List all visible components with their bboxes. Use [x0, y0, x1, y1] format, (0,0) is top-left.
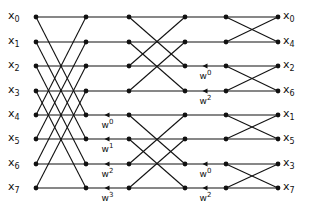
node: [183, 186, 188, 191]
twiddle-label-base: w: [102, 193, 109, 203]
output-label: x1: [283, 108, 295, 122]
node: [84, 186, 89, 191]
twiddle-label: w2: [102, 168, 114, 179]
node: [34, 40, 39, 45]
node: [34, 64, 39, 69]
output-label: x7: [283, 181, 295, 195]
input-label: x4: [8, 108, 20, 122]
output-label: x6: [283, 84, 295, 98]
node: [183, 40, 188, 45]
node: [127, 40, 132, 45]
twiddle-arrow: [105, 162, 110, 167]
output-label: x2: [283, 59, 295, 73]
twiddle-label: w0: [102, 119, 114, 130]
output-label: x3: [283, 157, 295, 171]
node: [276, 15, 281, 20]
node: [84, 64, 89, 69]
node: [127, 137, 132, 142]
twiddle-label-base: w: [200, 169, 207, 179]
twiddle-label-index: 2: [207, 191, 211, 199]
twiddle-arrow: [203, 162, 208, 167]
node: [127, 186, 132, 191]
node: [127, 89, 132, 94]
input-label-index: 4: [15, 113, 20, 122]
node: [127, 113, 132, 118]
twiddle-arrow: [105, 186, 110, 191]
node: [127, 15, 132, 20]
input-label: x3: [8, 84, 20, 98]
twiddle-arrow: [203, 89, 208, 94]
twiddle-label: w0: [200, 70, 212, 81]
twiddle-label-base: w: [102, 169, 109, 179]
input-label: x0: [8, 10, 20, 24]
input-label-index: 3: [15, 89, 20, 98]
node: [224, 64, 229, 69]
twiddle-label: w0: [200, 168, 212, 179]
node: [84, 137, 89, 142]
node: [34, 15, 39, 20]
input-label: x2: [8, 59, 20, 73]
node: [224, 137, 229, 142]
twiddle-arrow: [105, 113, 110, 118]
node: [224, 186, 229, 191]
butterfly-graph: [0, 0, 310, 211]
input-label-index: 5: [15, 137, 20, 146]
node: [34, 113, 39, 118]
node: [34, 186, 39, 191]
node: [34, 162, 39, 167]
node: [276, 113, 281, 118]
node: [127, 64, 132, 69]
output-label-index: 6: [290, 89, 295, 98]
output-label-index: 3: [290, 162, 295, 171]
twiddle-label: w2: [200, 95, 212, 106]
input-label: x1: [8, 35, 20, 49]
twiddle-label: w3: [102, 192, 114, 203]
twiddle-arrow: [203, 186, 208, 191]
output-label: x0: [283, 10, 295, 24]
node: [183, 113, 188, 118]
node: [34, 89, 39, 94]
output-label: x4: [283, 35, 295, 49]
output-label-index: 2: [290, 64, 295, 73]
node: [84, 40, 89, 45]
node: [183, 89, 188, 94]
twiddle-label-index: 2: [207, 94, 211, 102]
node: [224, 40, 229, 45]
twiddle-label: w2: [200, 192, 212, 203]
twiddle-label-index: 3: [109, 191, 113, 199]
node: [276, 186, 281, 191]
twiddle-label-base: w: [200, 193, 207, 203]
node: [34, 137, 39, 142]
output-label-index: 5: [290, 137, 295, 146]
twiddle-label-base: w: [200, 71, 207, 81]
twiddle-label: w1: [102, 143, 114, 154]
node: [84, 89, 89, 94]
node: [276, 40, 281, 45]
input-label: x5: [8, 132, 20, 146]
node: [183, 15, 188, 20]
input-label-index: 6: [15, 162, 20, 171]
twiddle-arrow: [203, 64, 208, 69]
node: [183, 137, 188, 142]
node: [84, 162, 89, 167]
fft-butterfly-diagram: x0x1x2x3x4x5x6x7x0x4x2x6x1x5x3x7w0w1w2w3…: [0, 0, 310, 211]
output-label-index: 4: [290, 40, 295, 49]
node: [127, 162, 132, 167]
output-label-index: 7: [290, 186, 295, 195]
twiddle-arrow: [105, 137, 110, 142]
twiddle-label-index: 0: [207, 69, 211, 77]
input-label-index: 1: [15, 40, 20, 49]
node: [276, 162, 281, 167]
node: [276, 137, 281, 142]
output-label-index: 1: [290, 113, 295, 122]
node: [183, 162, 188, 167]
input-label-index: 0: [15, 15, 20, 24]
twiddle-label-index: 2: [109, 167, 113, 175]
node: [224, 162, 229, 167]
twiddle-label-index: 0: [207, 167, 211, 175]
node: [84, 15, 89, 20]
node: [224, 89, 229, 94]
twiddle-label-index: 0: [109, 118, 113, 126]
twiddle-label-base: w: [102, 144, 109, 154]
input-label-index: 7: [15, 186, 20, 195]
